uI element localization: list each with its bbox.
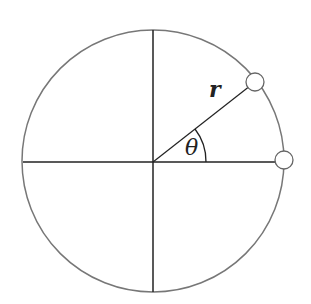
- point-on-circle-angle: [246, 73, 264, 91]
- radius-label: r: [209, 76, 221, 102]
- point-on-circle-zero: [275, 151, 293, 169]
- circle-diagram: [0, 0, 311, 304]
- angle-label: θ: [185, 135, 198, 160]
- radius-line: [153, 82, 255, 162]
